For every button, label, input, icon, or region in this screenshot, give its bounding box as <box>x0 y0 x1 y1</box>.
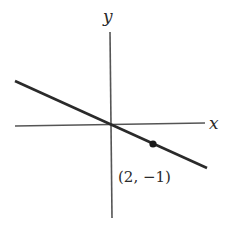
x-axis-label: x <box>209 113 219 133</box>
y-axis-label: y <box>102 6 113 26</box>
point-marker <box>149 140 156 147</box>
coordinate-plane-figure: y x (2, −1) <box>0 0 234 226</box>
point-label: (2, −1) <box>118 168 171 186</box>
